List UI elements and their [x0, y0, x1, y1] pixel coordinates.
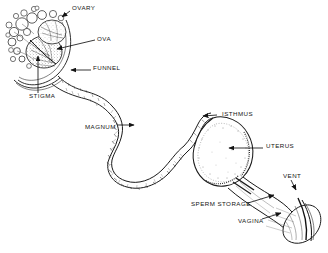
label-sperm-storage: SPERM STORAGE [191, 201, 251, 207]
vagina-leader [262, 213, 281, 219]
label-funnel: FUNNEL [93, 65, 120, 71]
label-vagina: VAGINA [238, 218, 264, 224]
label-stigma: STIGMA [29, 93, 55, 99]
ovary-leader [62, 11, 70, 17]
label-ovary: OVARY [72, 5, 95, 11]
magnum-coil [107, 106, 188, 189]
label-isthmus: ISTHMUS [222, 111, 253, 117]
label-uterus: UTERUS [266, 143, 294, 149]
anatomy-diagram-figure: OVARY OVA FUNNEL STIGMA MAGNUM ISTHMUS U… [0, 0, 328, 253]
ova-leader [57, 40, 95, 49]
label-vent: VENT [283, 173, 301, 179]
infundibulum-funnel [52, 76, 112, 114]
label-ova: OVA [97, 36, 111, 42]
leader-lines-group [38, 11, 296, 219]
diagram-canvas [0, 0, 328, 253]
label-magnum: MAGNUM [85, 124, 116, 130]
vent-leader [291, 180, 296, 190]
